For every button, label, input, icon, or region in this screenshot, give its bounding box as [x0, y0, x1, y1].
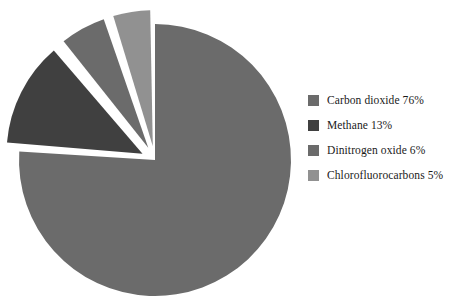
legend-swatch-chlorofluorocarbons — [308, 170, 319, 181]
pie-slice-group — [7, 10, 291, 296]
legend-label-carbon-dioxide: Carbon dioxide 76% — [327, 95, 424, 107]
chart-legend: Carbon dioxide 76% Methane 13% Dinitroge… — [308, 88, 457, 188]
legend-label-methane: Methane 13% — [327, 120, 392, 132]
legend-swatch-methane — [308, 120, 319, 131]
pie-chart-figure: Carbon dioxide 76% Methane 13% Dinitroge… — [0, 0, 457, 308]
legend-item-carbon-dioxide[interactable]: Carbon dioxide 76% — [308, 88, 457, 113]
legend-label-dinitrogen-oxide: Dinitrogen oxide 6% — [327, 145, 425, 157]
legend-swatch-carbon-dioxide — [308, 95, 319, 106]
legend-item-dinitrogen-oxide[interactable]: Dinitrogen oxide 6% — [308, 138, 457, 163]
pie-chart-svg — [0, 0, 300, 308]
legend-swatch-dinitrogen-oxide — [308, 145, 319, 156]
legend-item-methane[interactable]: Methane 13% — [308, 113, 457, 138]
legend-label-chlorofluorocarbons: Chlorofluorocarbons 5% — [327, 170, 443, 182]
legend-item-chlorofluorocarbons[interactable]: Chlorofluorocarbons 5% — [308, 163, 457, 188]
pie-chart-plot-area — [0, 0, 300, 308]
